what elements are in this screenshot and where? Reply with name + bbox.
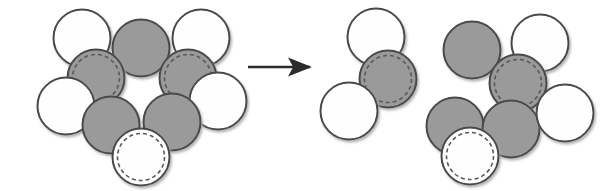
circle-white-dashed-bottom	[113, 129, 170, 186]
circle-white-dashed-bottom	[442, 128, 499, 185]
diagram-canvas: Hard-sphere cluster rearrangement	[0, 0, 605, 191]
circle-packing-svg	[0, 0, 605, 191]
cluster-left	[38, 10, 247, 186]
cluster-right	[427, 15, 594, 185]
circle-white-bottom-left	[321, 83, 378, 140]
cluster-middle	[321, 9, 417, 140]
circle-white-right	[537, 85, 594, 142]
